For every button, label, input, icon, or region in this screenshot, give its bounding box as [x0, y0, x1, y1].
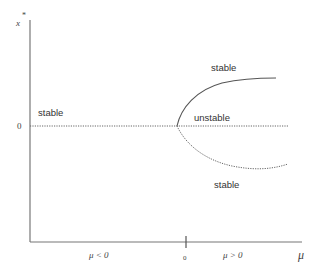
y-axis-label-superscript: *	[22, 11, 26, 20]
left-stable-label: stable	[38, 107, 63, 118]
bifurcation-diagram: x * 0 0 μ < 0 μ > 0 μ stable stable unst…	[0, 0, 319, 277]
unstable-label: unstable	[194, 112, 230, 123]
y-zero-tick-label: 0	[17, 121, 22, 131]
x-zero-tick-label: 0	[183, 254, 187, 262]
x-axis-label: μ	[297, 248, 304, 262]
lower-branch	[177, 126, 288, 169]
lower-stable-label: stable	[214, 179, 239, 190]
upper-stable-label: stable	[211, 62, 236, 73]
y-axis-label: x	[15, 18, 20, 28]
x-region-left-label: μ < 0	[88, 250, 109, 260]
x-region-right-label: μ > 0	[222, 250, 243, 260]
